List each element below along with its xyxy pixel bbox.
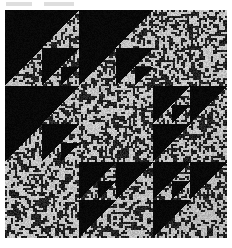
figure-root bbox=[0, 0, 232, 248]
scan-artifact-smudge-right bbox=[44, 2, 74, 6]
scan-artifact-smudge-left bbox=[6, 2, 32, 6]
texture-mosaic-image bbox=[5, 10, 227, 238]
texture-mosaic-canvas bbox=[5, 10, 227, 238]
